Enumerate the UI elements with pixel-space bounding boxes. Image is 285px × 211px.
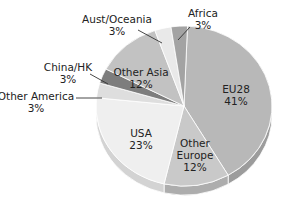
label-name: EU28 xyxy=(222,83,250,95)
label-name: Other America xyxy=(0,90,74,102)
label-name: China/HK xyxy=(44,61,93,73)
label-value: 3% xyxy=(195,19,212,31)
label-value: 3% xyxy=(109,25,126,37)
label-value: 3% xyxy=(60,73,77,85)
label-value: 3% xyxy=(28,102,45,114)
label-china-hk: China/HK3% xyxy=(44,61,93,85)
label-value: 12% xyxy=(129,78,152,90)
label-name: Europe xyxy=(177,149,214,161)
label-value: 23% xyxy=(129,139,152,151)
label-name: Other Asia xyxy=(113,66,168,78)
label-name: USA xyxy=(130,127,153,139)
label-other-america: Other America3% xyxy=(0,90,74,114)
label-value: 12% xyxy=(183,161,206,173)
label-name: Aust/Oceania xyxy=(82,13,152,25)
label-name: Other xyxy=(180,137,210,149)
pie-chart: EU2841%OtherEurope12%USA23%Other America… xyxy=(0,0,285,211)
label-aust-oceania: Aust/Oceania3% xyxy=(82,13,152,37)
label-eu28: EU2841% xyxy=(222,83,250,107)
label-value: 41% xyxy=(224,95,247,107)
label-usa: USA23% xyxy=(129,127,152,151)
label-name: Africa xyxy=(188,7,218,19)
